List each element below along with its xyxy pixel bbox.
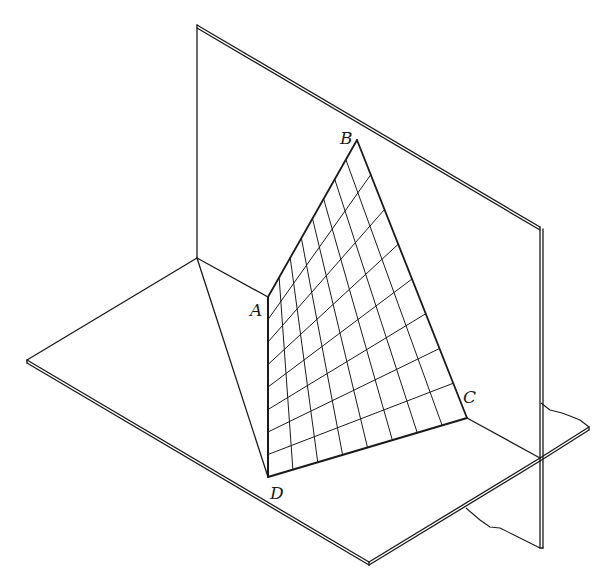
diagram-canvas: A B C D [0,0,608,583]
label-b: B [339,128,353,148]
vertical-under-break-line [466,508,540,548]
ruled-surface-abcd [268,140,467,477]
label-d: D [269,483,284,503]
label-a: A [248,300,262,320]
label-c: C [463,387,476,407]
